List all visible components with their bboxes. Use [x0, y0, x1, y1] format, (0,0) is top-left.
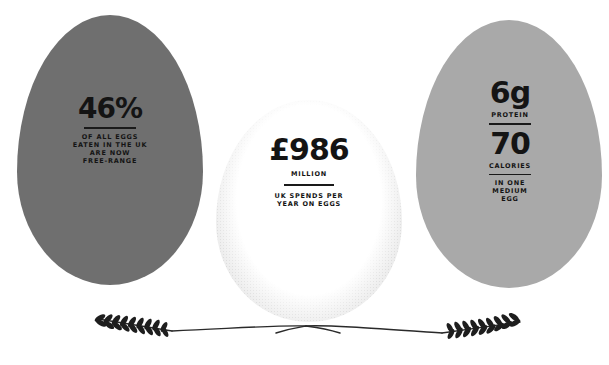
stat-protein-label: PROTEIN [468, 111, 552, 119]
stat-free-range-value: 46% [60, 95, 160, 123]
stat-nutrition: 6g PROTEIN 70 CALORIES IN ONE MEDIUM EGG [468, 78, 552, 203]
stat-uk-spend-caption-1: UK SPENDS PER [259, 192, 359, 200]
stat-uk-spend-unit: MILLION [259, 170, 359, 178]
wheat-left-icon [94, 313, 170, 338]
stat-uk-spend-caption-2: YEAR ON EGGS [259, 200, 359, 208]
stat-calories-value: 70 [468, 129, 552, 159]
stat-free-range-caption-4: FREE-RANGE [60, 157, 160, 165]
stat-free-range: 46% OF ALL EGGS EATEN IN THE UK ARE NOW … [60, 95, 160, 165]
stat-free-range-caption-2: EATEN IN THE UK [60, 141, 160, 149]
stat-protein-value: 6g [468, 78, 552, 108]
stat-nutrition-caption-2: MEDIUM [468, 187, 552, 195]
stat-free-range-caption-3: ARE NOW [60, 149, 160, 157]
stat-nutrition-caption-3: EGG [468, 195, 552, 203]
wheat-right-icon [445, 311, 521, 340]
wheat-sprig-divider-icon [0, 300, 609, 350]
stat-calories-label: CALORIES [468, 162, 552, 170]
divider-rule [284, 184, 334, 186]
divider-rule [489, 174, 531, 176]
stat-free-range-caption-1: OF ALL EGGS [60, 133, 160, 141]
stat-uk-spend-value: £986 [259, 135, 359, 165]
stat-nutrition-caption-1: IN ONE [468, 179, 552, 187]
stat-uk-spend: £986 MILLION UK SPENDS PER YEAR ON EGGS [259, 135, 359, 208]
divider-rule [489, 123, 531, 125]
divider-rule [84, 127, 136, 129]
